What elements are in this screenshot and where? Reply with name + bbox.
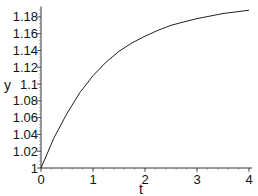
y-tick-label: 1.12 xyxy=(13,60,38,75)
x-axis-label: t xyxy=(139,181,143,196)
y-axis: 11.021.041.061.081.11.121.141.161.18 xyxy=(13,7,41,176)
data-line xyxy=(41,10,249,168)
x-tick-label: 4 xyxy=(245,172,252,187)
y-tick-label: 1.1 xyxy=(20,77,38,92)
y-tick-label: 1.18 xyxy=(13,9,38,24)
y-tick-label: 1.14 xyxy=(13,43,38,58)
y-tick-label: 1.08 xyxy=(13,93,38,108)
y-axis-label: y xyxy=(4,77,11,93)
x-axis: 01234 xyxy=(37,168,252,187)
y-tick-label: 1.16 xyxy=(13,26,38,41)
x-tick-label: 0 xyxy=(37,172,44,187)
line-chart: 11.021.041.061.081.11.121.141.161.18 012… xyxy=(0,0,258,196)
x-tick-label: 3 xyxy=(193,172,200,187)
y-tick-label: 1.06 xyxy=(13,110,38,125)
y-tick-label: 1.04 xyxy=(13,127,38,142)
y-tick-label: 1.02 xyxy=(13,144,38,159)
x-tick-label: 1 xyxy=(89,172,96,187)
